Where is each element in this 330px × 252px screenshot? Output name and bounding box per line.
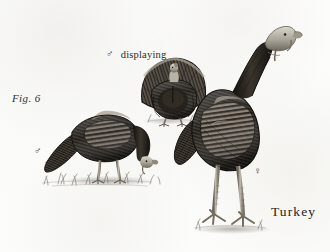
illustration-plate: Fig. 6 ♂displaying ♂ ♀ Turkey	[0, 0, 330, 252]
displaying-label-text: displaying	[121, 49, 167, 60]
turkey-foreground-male	[45, 111, 159, 184]
turkey-standing-female	[174, 26, 302, 226]
figure-number-label: Fig. 6	[12, 93, 41, 104]
female-symbol-icon: ♀	[254, 166, 262, 176]
male-symbol-icon: ♂	[106, 48, 114, 59]
male-symbol-foreground-icon: ♂	[34, 146, 42, 156]
male-displaying-annotation: ♂displaying	[106, 49, 166, 60]
plate-caption: Turkey	[271, 205, 316, 219]
